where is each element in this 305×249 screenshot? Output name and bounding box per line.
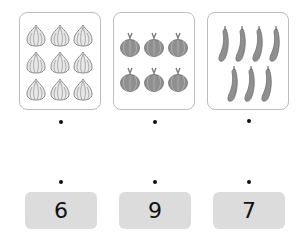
- number-label: 6: [54, 198, 68, 223]
- cucumber-panel: [207, 12, 289, 110]
- number-label: 9: [148, 198, 162, 223]
- onion-match-dot[interactable]: [153, 120, 157, 124]
- number-box[interactable]: 7: [213, 192, 285, 229]
- onion-panel: [113, 12, 195, 110]
- number-9-match-dot[interactable]: [153, 180, 157, 184]
- cucumber-icon: [208, 13, 288, 109]
- number-label: 7: [242, 198, 256, 223]
- garlic-panel: [19, 12, 101, 110]
- onion-icon: [114, 13, 194, 109]
- number-box[interactable]: 6: [25, 192, 97, 229]
- number-6-match-dot[interactable]: [59, 180, 63, 184]
- garlic-match-dot[interactable]: [59, 120, 63, 124]
- number-box[interactable]: 9: [119, 192, 191, 229]
- cucumber-match-dot[interactable]: [247, 119, 251, 123]
- garlic-icon: [20, 13, 100, 109]
- number-7-match-dot[interactable]: [247, 180, 251, 184]
